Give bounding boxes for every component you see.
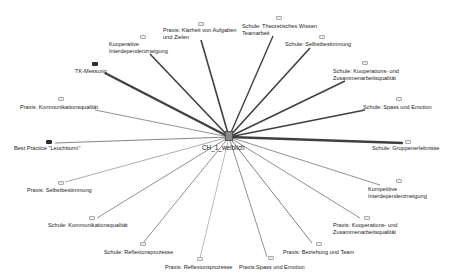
code-node-icon[interactable] (58, 97, 64, 101)
code-node-label[interactable]: Praxis: Klarheit von Aufgaben und Zielen (163, 27, 236, 41)
edge-n8 (229, 81, 345, 137)
edge-n6 (229, 36, 273, 137)
code-node-icon[interactable] (405, 140, 411, 144)
code-node-icon[interactable] (140, 35, 146, 39)
code-node-icon[interactable] (276, 16, 282, 20)
code-node-icon[interactable] (89, 216, 95, 220)
code-node-icon[interactable] (140, 242, 146, 246)
center-node-label: CH_1_weiblich (202, 144, 245, 151)
code-relations-diagram: CH_1_weiblich Praxis: Klarheit von Aufga… (0, 0, 452, 280)
code-node-label[interactable]: Praxis: Beziehung und Team (283, 249, 354, 256)
code-node-label[interactable]: TK-Messung (75, 68, 107, 75)
code-node-label[interactable]: Kompetitive Interdependenzneigung (368, 186, 427, 200)
center-document-icon[interactable] (225, 131, 233, 141)
code-node-label[interactable]: Praxis: Reflexionsprozesse (165, 264, 232, 271)
code-node-icon[interactable] (396, 97, 402, 101)
code-node-icon[interactable] (316, 242, 322, 246)
edge-n11 (229, 137, 380, 185)
code-node-label[interactable]: Schule: Theoretisches Wissen Teamarbeit (242, 23, 317, 37)
code-node-label[interactable]: Schule: Gruppenerlebnisse (372, 145, 439, 152)
edge-n12 (229, 137, 360, 218)
code-node-icon[interactable] (198, 22, 204, 26)
code-node-label[interactable]: Praxis:Spass und Emotion (239, 264, 305, 271)
code-node-label[interactable]: Schule: Reflexionsprozesse (104, 249, 173, 256)
code-node-label[interactable]: Best Practice "Leuchtturm" (14, 145, 80, 152)
code-node-label[interactable]: Schule: Kommunikationsqualität (48, 222, 128, 229)
code-node-icon[interactable] (362, 61, 368, 65)
code-node-label[interactable]: Praxis: Selbstbestimmung (27, 187, 92, 194)
edge-n3 (105, 73, 229, 137)
code-node-label[interactable]: Kooperative Interdependenzneigung (109, 41, 168, 55)
code-node-icon[interactable] (58, 181, 64, 185)
code-node-label[interactable]: Schule: Kooperations- und Zusammenarbeit… (333, 68, 399, 82)
code-node-label[interactable]: Schule: Spass und Emotion (363, 104, 432, 111)
edge-n4 (95, 110, 229, 137)
code-node-icon[interactable] (268, 256, 274, 260)
code-node-icon[interactable] (396, 179, 402, 183)
edge-n10 (229, 137, 403, 143)
code-node-icon[interactable] (364, 216, 370, 220)
edge-n13 (229, 137, 312, 243)
code-node-label[interactable]: Praxis: Kooperations- und Zusammenarbeit… (333, 222, 397, 236)
code-node-icon[interactable] (197, 257, 203, 261)
edge-n14 (229, 137, 267, 257)
code-node-label[interactable]: Schule: Selbstbestimmung (285, 41, 351, 48)
edge-n5 (55, 137, 229, 143)
code-node-label[interactable]: Praxis: Kommunikationsqualität (20, 104, 98, 111)
code-node-icon[interactable] (92, 62, 98, 66)
code-node-icon[interactable] (319, 35, 325, 39)
code-node-icon[interactable] (46, 140, 52, 144)
